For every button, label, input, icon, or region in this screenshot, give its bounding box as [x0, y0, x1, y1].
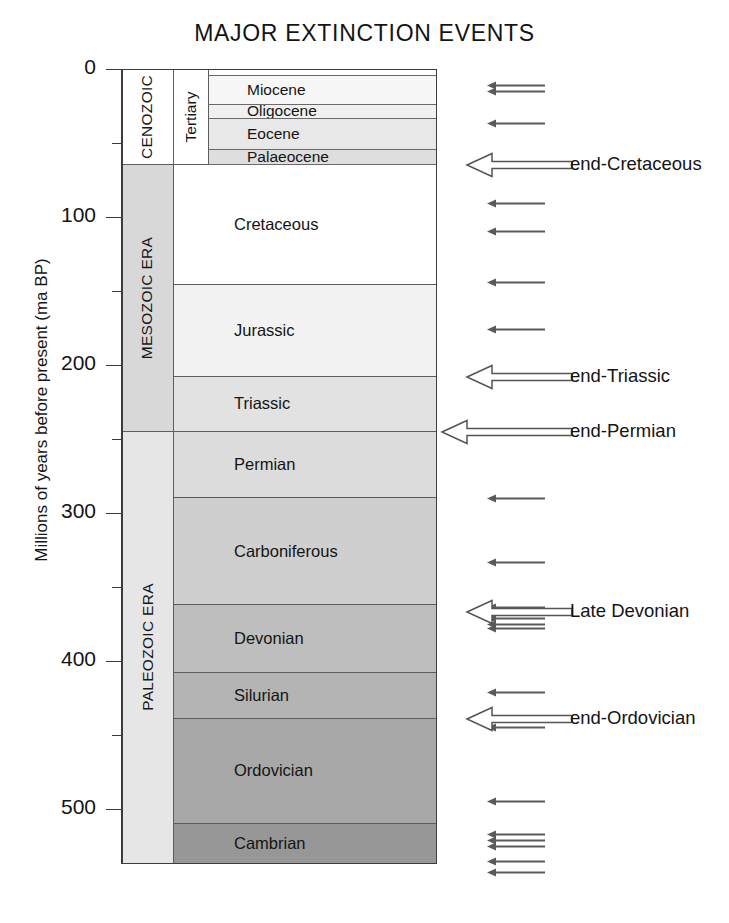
- minor-extinction-arrow-icon: [487, 842, 545, 851]
- period-band: Silurian: [173, 673, 437, 719]
- period-band-label: Silurian: [174, 686, 289, 705]
- era-band-label: CENOZOIC: [139, 75, 157, 159]
- epoch-band-label: Eocene: [209, 125, 300, 143]
- y-tick-minor: [112, 143, 122, 144]
- era-band: PALEOZOIC ERA: [122, 432, 173, 864]
- y-tick-major: [106, 69, 122, 70]
- minor-extinction-arrow-icon: [487, 87, 545, 96]
- y-tick-label: 200: [36, 351, 96, 375]
- y-tick-label: 300: [36, 499, 96, 523]
- era-band: MESOZOIC ERA: [122, 165, 173, 431]
- y-tick-major: [106, 365, 122, 366]
- period-band-label: Jurassic: [174, 321, 295, 340]
- period-band: Permian: [173, 432, 437, 499]
- system-band-label: Tertiary: [182, 91, 200, 142]
- minor-extinction-arrow-icon: [487, 688, 545, 697]
- y-tick-minor: [112, 587, 122, 588]
- epoch-band: Eocene: [208, 119, 437, 150]
- minor-extinction-arrow-icon: [487, 494, 545, 503]
- major-extinction-arrow-icon: [441, 419, 573, 445]
- major-extinction-arrow-icon: [466, 152, 573, 178]
- y-tick-major: [106, 661, 122, 662]
- geologic-time-scale: CENOZOICMESOZOIC ERAPALEOZOIC ERA Tertia…: [122, 69, 437, 864]
- y-tick-major: [106, 513, 122, 514]
- period-band: Triassic: [173, 377, 437, 432]
- minor-extinction-arrow-icon: [487, 797, 545, 806]
- epoch-band: Palaeocene: [208, 150, 437, 165]
- y-tick-major: [106, 217, 122, 218]
- extinction-event-label: end-Ordovician: [570, 707, 695, 729]
- extinction-event-label: end-Cretaceous: [570, 153, 702, 175]
- page-title: MAJOR EXTINCTION EVENTS: [0, 20, 729, 47]
- extinction-event-label: Late Devonian: [570, 600, 689, 622]
- extinction-event-label: end-Triassic: [570, 365, 670, 387]
- period-band-label: Cretaceous: [174, 215, 318, 234]
- y-tick-label: 0: [36, 55, 96, 79]
- major-extinction-arrow-icon: [466, 599, 573, 625]
- period-band-label: Ordovician: [174, 761, 313, 780]
- era-band: CENOZOIC: [122, 69, 173, 165]
- epoch-band-label: Palaeocene: [209, 150, 329, 165]
- minor-extinction-arrow-icon: [487, 624, 545, 633]
- period-band: Devonian: [173, 605, 437, 673]
- era-band-label: MESOZOIC ERA: [139, 237, 157, 359]
- y-tick-minor: [112, 735, 122, 736]
- period-band: Cretaceous: [173, 165, 437, 285]
- y-tick-major: [106, 809, 122, 810]
- period-band-label: Devonian: [174, 629, 304, 648]
- extinction-event-label: end-Permian: [570, 420, 676, 442]
- period-band: Cambrian: [173, 824, 437, 864]
- period-band: Ordovician: [173, 719, 437, 824]
- era-band-label: PALEOZOIC ERA: [139, 584, 157, 712]
- y-tick-label: 400: [36, 647, 96, 671]
- epoch-band-label: Miocene: [209, 81, 306, 99]
- y-tick-label: 500: [36, 795, 96, 819]
- minor-extinction-arrow-icon: [487, 199, 545, 208]
- y-tick-label: 100: [36, 203, 96, 227]
- minor-extinction-arrow-icon: [487, 278, 545, 287]
- period-band: Carboniferous: [173, 498, 437, 605]
- epoch-band-label: Oligocene: [209, 105, 317, 120]
- period-band-label: Permian: [174, 455, 295, 474]
- period-band: Jurassic: [173, 285, 437, 377]
- epoch-band: Oligocene: [208, 105, 437, 120]
- major-extinction-arrow-icon: [466, 364, 573, 390]
- y-axis-label: Millions of years before present (ma BP): [32, 200, 52, 620]
- period-band-label: Carboniferous: [174, 542, 338, 561]
- system-band: Tertiary: [173, 69, 208, 165]
- epoch-band: Miocene: [208, 76, 437, 104]
- minor-extinction-arrow-icon: [487, 857, 545, 866]
- minor-extinction-arrow-icon: [487, 119, 545, 128]
- minor-extinction-arrow-icon: [487, 227, 545, 236]
- major-extinction-arrow-icon: [466, 706, 573, 732]
- y-tick-minor: [112, 291, 122, 292]
- period-band-label: Cambrian: [174, 834, 306, 853]
- minor-extinction-arrow-icon: [487, 558, 545, 567]
- minor-extinction-arrow-icon: [487, 868, 545, 877]
- y-tick-minor: [112, 439, 122, 440]
- period-band-label: Triassic: [174, 394, 290, 413]
- epoch-band: [208, 69, 437, 76]
- minor-extinction-arrow-icon: [487, 325, 545, 334]
